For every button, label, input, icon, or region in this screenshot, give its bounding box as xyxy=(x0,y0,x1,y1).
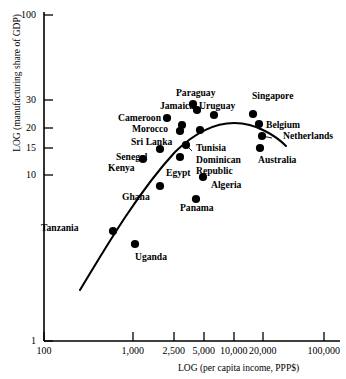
point-label: Senegal xyxy=(116,152,147,163)
x-tick-label: 1,000 xyxy=(122,345,145,356)
x-tick-label: 20,000 xyxy=(249,345,277,356)
x-tick-label: 100,000 xyxy=(308,345,341,356)
data-point xyxy=(210,111,218,119)
data-point xyxy=(249,110,257,118)
x-axis-ticks xyxy=(44,332,324,341)
point-label: Tanzania xyxy=(41,223,79,234)
y-tick-label: 30 xyxy=(2,94,36,105)
data-point xyxy=(109,227,117,235)
point-label: Tunisia xyxy=(196,143,226,154)
x-tick-label: 5,000 xyxy=(193,345,216,356)
point-label: Egypt xyxy=(166,168,191,179)
y-tick-label: 10 xyxy=(2,169,36,180)
point-label: Kenya xyxy=(108,163,135,174)
point-label: Panama xyxy=(180,203,214,214)
point-label: DominicanRepublic xyxy=(196,155,262,176)
point-label: Morocco xyxy=(132,124,168,135)
x-tick-label: 10,000 xyxy=(220,345,248,356)
x-tick-label: 2,500 xyxy=(163,345,186,356)
data-point xyxy=(258,132,266,140)
point-label: Uruguay xyxy=(199,101,235,112)
y-axis-title: LOG (manufacturing share of GDP) xyxy=(12,8,22,158)
data-point xyxy=(176,153,184,161)
data-point xyxy=(163,114,171,122)
axes xyxy=(44,12,340,341)
data-point xyxy=(131,240,139,248)
scatter-chart: LOG (manufacturing share of GDP) LOG (pe… xyxy=(0,0,346,379)
plot-area xyxy=(0,0,346,379)
y-tick-label: 20 xyxy=(2,122,36,133)
y-axis-ticks xyxy=(44,15,53,341)
point-label: Ghana xyxy=(122,192,150,203)
x-axis-title: LOG (per capita income, PPP$) xyxy=(178,363,299,373)
y-tick-label: 100 xyxy=(2,9,36,20)
data-point xyxy=(182,141,190,149)
data-point xyxy=(196,126,204,134)
y-tick-label: 15 xyxy=(2,142,36,153)
point-label: Paraguay xyxy=(176,88,215,99)
point-label: Netherlands xyxy=(283,131,333,142)
x-tick-label: 100 xyxy=(37,345,52,356)
point-label: Cameroon xyxy=(118,113,161,124)
point-label: Australia xyxy=(258,155,296,166)
point-label: Singapore xyxy=(252,91,293,102)
data-point xyxy=(176,127,184,135)
data-point xyxy=(156,182,164,190)
point-label: Algeria xyxy=(211,180,241,191)
y-tick-label: 1 xyxy=(2,335,36,346)
data-point xyxy=(256,144,264,152)
data-point xyxy=(255,120,263,128)
point-label: Uganda xyxy=(135,252,167,263)
point-label: Belgium xyxy=(266,120,300,131)
point-label: Jamaica xyxy=(160,101,194,112)
point-label: Sri Lanka xyxy=(131,137,172,148)
